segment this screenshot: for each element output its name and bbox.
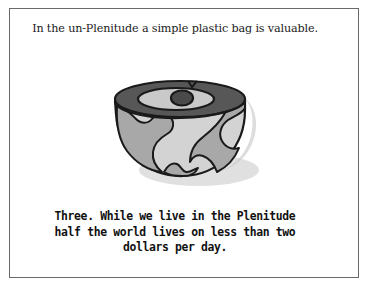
caption-bottom: Three. While we live in the Plenitude ha… [14,209,336,256]
comic-panel: In the un-Plenitude a simple plastic bag… [0,0,374,289]
globe-illustration [104,72,276,188]
caption-bottom-line-3: dollars per day. [14,240,336,256]
sliced-globe-icon [104,72,276,188]
caption-bottom-line-1: Three. While we live in the Plenitude [14,209,336,225]
caption-bottom-line-2: half the world lives on less than two [14,225,336,241]
caption-top: In the un-Plenitude a simple plastic bag… [14,22,336,35]
